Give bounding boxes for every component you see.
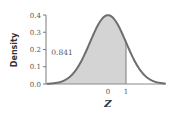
x-tick-label: 1: [124, 88, 128, 96]
y-tick-label: 0.2: [30, 46, 41, 54]
y-tick-label: 0.3: [30, 29, 41, 37]
normal-density-chart: 0.00.10.20.30.4 01 Density Z 0.841: [0, 0, 177, 114]
area-annotation: 0.841: [51, 48, 72, 57]
y-axis: 0.00.10.20.30.4: [30, 12, 46, 89]
x-tick-label: 0: [106, 88, 110, 96]
x-axis: 01: [106, 88, 128, 96]
y-axis-label: Density: [10, 32, 19, 67]
x-axis-label: Z: [103, 98, 112, 109]
y-tick-label: 0.1: [30, 63, 41, 71]
y-tick-label: 0.4: [30, 12, 42, 20]
y-tick-label: 0.0: [30, 81, 41, 89]
